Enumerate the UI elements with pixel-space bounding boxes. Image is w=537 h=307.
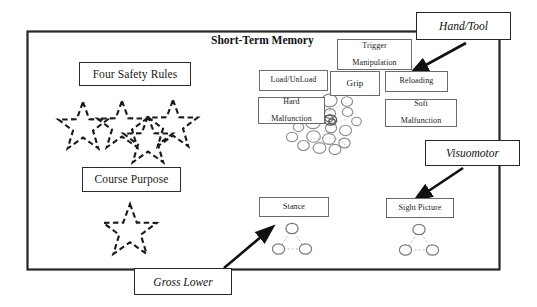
box-grip[interactable]: Grip [330,71,380,96]
box-load-unload[interactable]: Load/UnLoad [259,70,328,91]
box-stance-label: Stance [260,203,328,211]
box-soft-malfunction[interactable]: Soft Malfunction [385,99,457,127]
box-trigger-manipulation-line2: Manipulation [338,59,411,67]
label-visuomotor[interactable]: Visuomotor [425,140,520,166]
box-sight-picture-label: Sight Picture [387,204,453,212]
box-hard-malfunction[interactable]: Hard Malfunction [258,97,325,124]
hand-tool-arrow [424,43,466,66]
page-title: Short-Term Memory [211,34,314,46]
stance-cluster [272,223,311,254]
box-soft-malfunction-line1: Soft [386,100,456,108]
label-gross-lower[interactable]: Gross Lower [134,268,232,295]
box-load-unload-label: Load/UnLoad [260,76,327,84]
box-stance[interactable]: Stance [259,197,329,217]
box-hard-malfunction-line2: Malfunction [259,115,324,123]
box-hard-malfunction-line1: Hard [259,98,324,106]
box-four-safety-rules[interactable]: Four Safety Rules [79,62,191,86]
box-sight-picture[interactable]: Sight Picture [386,198,454,218]
sight-picture-cluster [399,224,438,255]
gross-lower-arrow [224,236,262,268]
visuomotor-arrow [427,168,463,192]
label-gross-lower-text: Gross Lower [153,276,212,288]
diagram-canvas: Short-Term Memory Four Safety Rules Cour… [0,0,537,307]
box-reloading[interactable]: Reloading [385,71,448,92]
label-hand-tool-text: Hand/Tool [439,20,488,32]
label-visuomotor-text: Visuomotor [446,147,499,159]
box-soft-malfunction-line2: Malfunction [386,117,456,125]
box-four-safety-rules-label: Four Safety Rules [80,68,190,80]
label-hand-tool[interactable]: Hand/Tool [416,12,511,40]
box-trigger-manipulation-line1: Trigger [338,42,411,50]
box-reloading-label: Reloading [386,77,447,85]
box-course-purpose[interactable]: Course Purpose [82,167,181,192]
box-course-purpose-label: Course Purpose [83,173,180,185]
box-grip-label: Grip [331,79,379,88]
box-trigger-manipulation[interactable]: Trigger Manipulation [337,39,412,70]
four-dashed-stars [58,100,197,162]
single-dashed-star [103,204,156,254]
